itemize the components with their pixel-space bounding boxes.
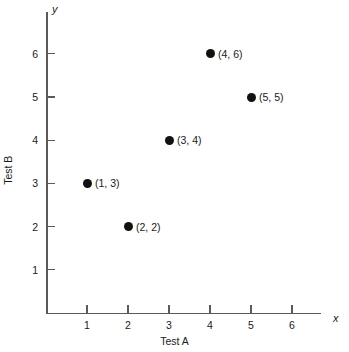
x-axis-title: Test A (0, 336, 349, 347)
data-point-label: (5, 5) (259, 92, 284, 103)
data-point-label: (1, 3) (95, 178, 120, 189)
data-point (206, 49, 215, 58)
x-tick-mark (168, 305, 169, 313)
data-point (247, 93, 256, 102)
y-tick-mark (47, 53, 55, 54)
x-tick-mark (291, 305, 292, 313)
y-tick-label: 5 (22, 92, 38, 103)
scatter-plot: y x 123456 123456 (1, 3)(2, 2)(3, 4)(4, … (0, 0, 349, 352)
y-tick-mark (47, 96, 55, 97)
x-tick-label: 1 (79, 320, 95, 331)
x-tick-mark (209, 305, 210, 313)
x-tick-label: 4 (202, 320, 218, 331)
x-tick-label: 3 (161, 320, 177, 331)
y-tick-label: 4 (22, 135, 38, 146)
x-tick-label: 2 (120, 320, 136, 331)
x-axis-symbol: x (333, 313, 339, 324)
y-tick-label: 6 (22, 49, 38, 60)
y-axis-symbol: y (52, 4, 58, 15)
x-tick-label: 5 (243, 320, 259, 331)
y-tick-mark (47, 183, 55, 184)
data-point (165, 136, 174, 145)
y-tick-mark (47, 226, 55, 227)
y-tick-mark (47, 140, 55, 141)
x-tick-mark (250, 305, 251, 313)
x-tick-mark (127, 305, 128, 313)
data-point-label: (4, 6) (218, 49, 243, 60)
y-tick-label: 2 (22, 222, 38, 233)
data-point-label: (3, 4) (177, 135, 202, 146)
data-point (124, 222, 133, 231)
y-tick-label: 3 (22, 178, 38, 189)
x-tick-label: 6 (284, 320, 300, 331)
data-point-label: (2, 2) (136, 222, 161, 233)
data-point (83, 179, 92, 188)
x-tick-mark (86, 305, 87, 313)
y-axis-title: Test B (3, 138, 14, 202)
y-tick-label: 1 (22, 265, 38, 276)
y-tick-mark (47, 269, 55, 270)
